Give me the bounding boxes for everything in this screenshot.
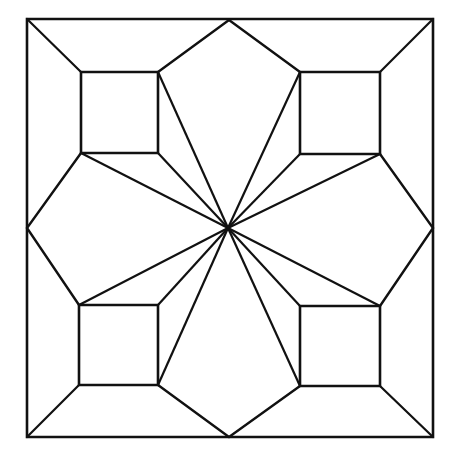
geometric-pattern-svg	[0, 0, 457, 461]
figure-container	[0, 0, 457, 461]
